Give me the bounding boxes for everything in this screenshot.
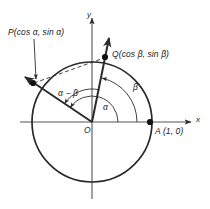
point-label-Q: Q(cos β, sin β) [112, 50, 169, 59]
point-Q-marker [102, 54, 108, 60]
chord-PQ [34, 58, 104, 83]
arc-beta [102, 78, 137, 122]
point-A-marker [147, 119, 153, 125]
point-P-marker [30, 80, 36, 86]
unit-circle-figure: P(cos α, sin α) Q(cos β, sin β) A (1, 0)… [0, 0, 210, 209]
y-axis-label: y [87, 11, 91, 19]
angle-label-alpha-minus-beta: α − β [58, 89, 78, 98]
angle-label-beta: β [133, 83, 138, 92]
origin-label: O [84, 126, 91, 135]
leader-line-P [34, 39, 36, 79]
angle-label-alpha: α [103, 103, 108, 112]
point-label-A: A (1, 0) [155, 127, 183, 136]
x-axis-label: x [196, 116, 200, 124]
point-label-P: P(cos α, sin α) [8, 28, 64, 37]
